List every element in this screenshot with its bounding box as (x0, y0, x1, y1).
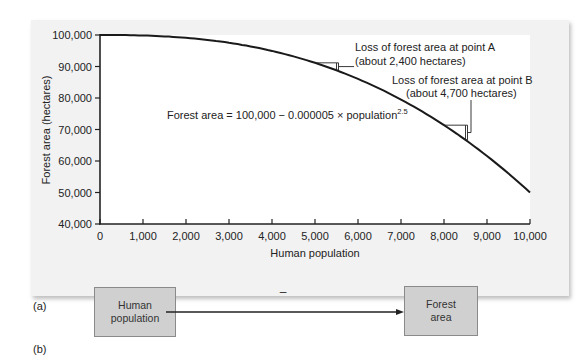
point-b-label-line2: (about 4,700 hectares) (406, 87, 517, 99)
y-tick-label: 40,000 (58, 218, 92, 230)
x-tick-label: 8,000 (430, 230, 458, 242)
x-tick-label: 4,000 (258, 230, 286, 242)
forest-area-chart: 40,00050,00060,00070,00080,00090,000100,… (0, 0, 585, 300)
point-a-label-line2: (about 2,400 hectares) (355, 55, 466, 67)
y-tick-label: 80,000 (58, 92, 92, 104)
x-tick-label: 9,000 (473, 230, 501, 242)
x-tick-label: 0 (97, 230, 103, 242)
forest-area-box: Forestarea (404, 286, 478, 336)
formula-annotation: Forest area = 100,000 − 0.000005 × popul… (167, 107, 408, 121)
x-tick-label: 1,000 (129, 230, 157, 242)
panel-label-a: (a) (33, 300, 46, 312)
y-tick-label: 90,000 (58, 61, 92, 73)
point-b-label-line1: Loss of forest area at point B (392, 74, 533, 86)
arrowhead-icon (396, 309, 404, 315)
panel-label-b: (b) (33, 343, 46, 355)
y-tick-label: 100,000 (52, 29, 92, 41)
target-line1: Forest (426, 298, 456, 310)
source-line2: population (111, 312, 159, 324)
y-tick-label: 50,000 (58, 187, 92, 199)
y-axis-label: Forest area (hectares) (40, 76, 52, 185)
x-axis-label: Human population (270, 247, 359, 259)
x-tick-label: 2,000 (172, 230, 200, 242)
x-tick-label: 5,000 (301, 230, 329, 242)
formula-exponent: 2.5 (397, 107, 407, 116)
human-population-box: Humanpopulation (94, 287, 176, 337)
x-tick-label: 6,000 (344, 230, 372, 242)
source-line1: Human (118, 299, 152, 311)
x-tick-label: 3,000 (215, 230, 243, 242)
y-tick-label: 70,000 (58, 124, 92, 136)
formula-text: Forest area = 100,000 − 0.000005 × popul… (167, 109, 397, 121)
x-tick-label: 10,000 (513, 230, 547, 242)
y-tick-label: 60,000 (58, 155, 92, 167)
point-a-label-line1: Loss of forest area at point A (355, 41, 496, 53)
target-line2: area (430, 311, 451, 323)
x-tick-label: 7,000 (387, 230, 415, 242)
y-axis-ticks: 40,00050,00060,00070,00080,00090,000100,… (52, 29, 100, 230)
